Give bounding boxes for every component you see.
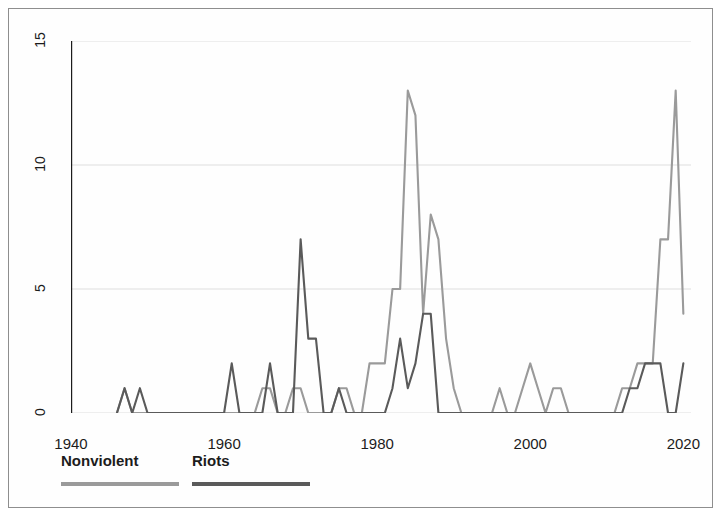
- legend-entry-riots: Riots: [192, 452, 310, 486]
- y-tick-label-0: 0: [32, 395, 48, 429]
- legend-swatch-riots: [192, 482, 310, 486]
- x-tick-label-1940: 1940: [41, 435, 101, 452]
- legend-label-riots: Riots: [192, 452, 310, 470]
- figure-frame: 051015 19401960198020002020 Nonviolent R…: [8, 8, 713, 508]
- series-lines: [117, 91, 683, 413]
- axis-lines: [71, 41, 691, 413]
- plot-area: [71, 41, 691, 413]
- legend-entry-nonviolent: Nonviolent: [61, 452, 179, 486]
- legend-label-nonviolent: Nonviolent: [61, 452, 179, 470]
- x-tick-label-1980: 1980: [347, 435, 407, 452]
- x-tick-label-2020: 2020: [653, 435, 713, 452]
- x-tick-label-2000: 2000: [500, 435, 560, 452]
- legend-swatch-nonviolent: [61, 482, 179, 486]
- y-tick-label-5: 5: [32, 271, 48, 305]
- chart-svg: [71, 41, 691, 413]
- axis-ticks: [71, 41, 683, 413]
- y-tick-label-10: 10: [32, 147, 48, 181]
- y-tick-label-15: 15: [32, 23, 48, 57]
- gridlines: [71, 41, 691, 413]
- chart-legend: Nonviolent Riots: [61, 452, 661, 500]
- x-tick-label-1960: 1960: [194, 435, 254, 452]
